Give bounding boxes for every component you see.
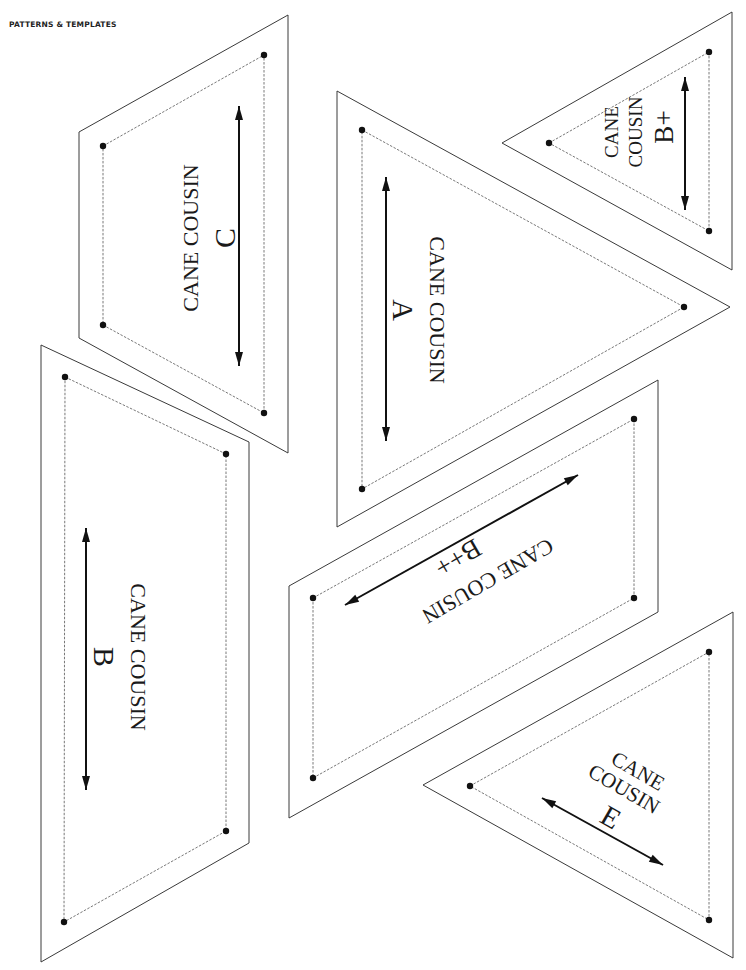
piece-label: CANE COUSIN xyxy=(126,583,151,730)
piece-label: CANE xyxy=(601,106,622,158)
template-piece-a: CANE COUSINA xyxy=(337,91,730,527)
corner-dot-icon xyxy=(223,828,229,834)
piece-label: B+ xyxy=(649,110,679,143)
pattern-sheet: CANE COUSINCCANE COUSINACANECOUSINB+CANE… xyxy=(0,0,746,970)
corner-dot-icon xyxy=(261,410,267,416)
grainline-arrow-icon xyxy=(681,77,689,210)
corner-dot-icon xyxy=(706,649,712,655)
corner-dot-icon xyxy=(261,52,267,58)
piece-label: B xyxy=(88,647,121,667)
corner-dot-icon xyxy=(706,917,712,923)
corner-dot-icon xyxy=(62,374,68,380)
corner-dot-icon xyxy=(706,228,712,234)
piece-label: C xyxy=(208,228,241,248)
corner-dot-icon xyxy=(681,304,687,310)
piece-label: CANE COUSIN xyxy=(418,533,558,628)
corner-dot-icon xyxy=(359,127,365,133)
corner-dot-icon xyxy=(223,451,229,457)
corner-dot-icon xyxy=(61,919,67,925)
corner-dot-icon xyxy=(631,595,637,601)
template-piece-c: CANE COUSINC xyxy=(79,15,288,453)
template-piece-bplus: CANECOUSINB+ xyxy=(502,12,732,270)
piece-label: COUSIN xyxy=(625,96,646,167)
corner-dot-icon xyxy=(546,140,552,146)
corner-dot-icon xyxy=(100,143,106,149)
piece-label: CANE COUSIN xyxy=(178,164,203,311)
template-piece-bplusplus: CANE COUSINB++ xyxy=(289,380,658,818)
template-piece-e: CANECOUSINE xyxy=(423,612,733,958)
corner-dot-icon xyxy=(706,49,712,55)
piece-label: A xyxy=(387,299,420,321)
corner-dot-icon xyxy=(100,322,106,328)
corner-dot-icon xyxy=(467,783,473,789)
corner-dot-icon xyxy=(631,416,637,422)
template-piece-b: CANE COUSINB xyxy=(41,345,249,962)
piece-label: CANE COUSIN xyxy=(425,236,450,383)
corner-dot-icon xyxy=(359,486,365,492)
corner-dot-icon xyxy=(310,775,316,781)
corner-dot-icon xyxy=(310,595,316,601)
